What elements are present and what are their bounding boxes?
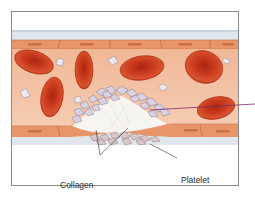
vessel-wall-top bbox=[12, 30, 238, 49]
platelet-plug-pointer-line bbox=[150, 144, 177, 158]
blood-vessel-illustration bbox=[0, 0, 255, 198]
label-platelet-plug: Platelet plug bbox=[181, 155, 209, 198]
label-collagen-fibers: Collagen fibers bbox=[60, 160, 94, 198]
